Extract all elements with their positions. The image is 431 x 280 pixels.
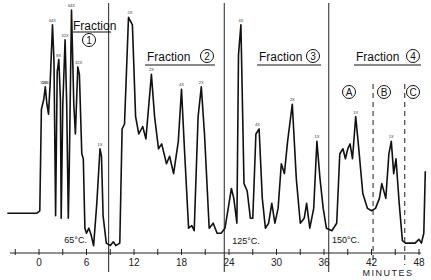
x-tick-label: 18 xyxy=(176,257,188,268)
fraction-label-3: Fraction3 xyxy=(257,50,321,66)
peak-attenuation-label: 64X xyxy=(49,18,56,23)
subfraction-labels: ABC xyxy=(343,86,420,99)
x-tick-label: 0 xyxy=(36,257,42,268)
temperature-label: 65°C. xyxy=(64,235,87,245)
x-tick-label: 36 xyxy=(318,257,330,268)
fraction-text: Fraction xyxy=(356,50,399,64)
fraction-number: 1 xyxy=(86,35,92,46)
fraction-text: Fraction xyxy=(73,19,116,33)
subfraction-label-a: A xyxy=(343,86,356,99)
x-tick-label: 48 xyxy=(413,257,425,268)
fraction-number: 4 xyxy=(410,51,416,62)
fraction-text: Fraction xyxy=(147,50,190,64)
x-tick-label: 24 xyxy=(223,257,235,268)
peak-attenuation-label: 1X xyxy=(314,134,319,139)
fraction-label-4: Fraction4 xyxy=(354,50,421,66)
subfraction-letter: B xyxy=(381,87,388,98)
subfraction-letter: C xyxy=(409,87,416,98)
subfraction-letter: A xyxy=(346,87,353,98)
x-axis-title: MINUTES xyxy=(363,268,414,278)
temperature-label: 125°C. xyxy=(232,236,260,246)
subfraction-label-b: B xyxy=(378,86,391,99)
fraction-separators xyxy=(109,3,405,272)
peak-attenuation-label: 2X xyxy=(199,80,204,85)
x-tick-label: 30 xyxy=(271,257,283,268)
x-axis-ticks: 0612182430364248 xyxy=(15,249,425,268)
peak-attenuation-label: 8X xyxy=(56,53,61,58)
peak-attenuation-label: 32X xyxy=(75,60,82,65)
x-tick-label: 42 xyxy=(366,257,378,268)
fraction-text: Fraction xyxy=(259,50,302,64)
fraction-number: 3 xyxy=(310,51,316,62)
fraction-label-2: Fraction2 xyxy=(145,50,215,66)
peak-attenuation-label: 2X xyxy=(149,67,154,72)
fraction-number: 2 xyxy=(204,51,210,62)
peak-attenuation-label: 4X xyxy=(238,18,243,23)
peak-attenuation-label: 32X xyxy=(62,33,69,38)
peak-attenuation-label: 1X xyxy=(353,110,358,115)
peak-attenuation-label: 2X xyxy=(128,10,133,15)
fraction-label-1: Fraction1 xyxy=(73,19,116,47)
peak-attenuation-label: 1X xyxy=(98,142,103,147)
peak-attenuation-label: 64X xyxy=(68,3,75,8)
peak-attenuation-label: 1X xyxy=(389,134,394,139)
peak-attenuation-label: 16X xyxy=(42,80,49,85)
peak-attenuation-label: 2X xyxy=(290,97,295,102)
subfraction-label-c: C xyxy=(407,86,420,99)
peak-attenuation-label: 4X xyxy=(255,122,260,127)
fraction-labels: Fraction1Fraction2Fraction3Fraction4 xyxy=(73,19,421,65)
x-tick-label: 6 xyxy=(84,257,90,268)
chromatogram-trace xyxy=(7,10,425,246)
chromatogram-chart: 0612182430364248 MINUTES 32X16X64X8X32X6… xyxy=(0,0,431,280)
peak-attenuation-label: 4X xyxy=(179,82,184,87)
x-tick-label: 12 xyxy=(128,257,140,268)
temperature-label: 150°C. xyxy=(332,235,360,245)
